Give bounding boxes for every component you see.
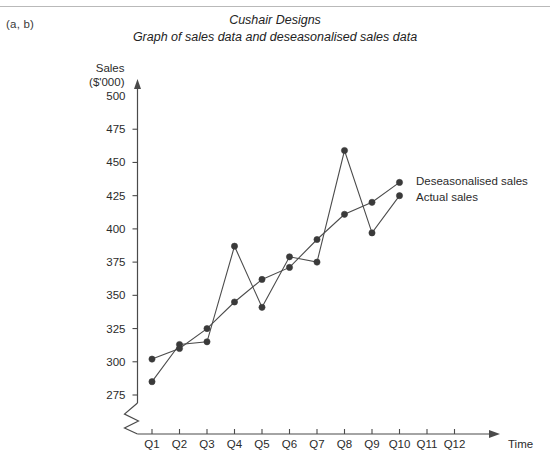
x-tick-label: Q11 [417, 438, 438, 450]
data-point [204, 339, 210, 345]
sales-line-chart: 275300325350375400425450475500 Q1Q2Q3Q4Q… [0, 0, 550, 463]
legend-label: Deseasonalised sales [416, 175, 528, 187]
x-axis: Q1Q2Q3Q4Q5Q6Q7Q8Q9Q10Q11Q12 [138, 429, 501, 450]
x-tick-label: Q1 [144, 438, 159, 450]
data-point [149, 379, 155, 385]
legend-label: Actual sales [416, 191, 478, 203]
data-point [204, 326, 210, 332]
x-axis-arrow [489, 430, 500, 438]
y-tick-label: 500 [106, 90, 125, 102]
data-point [314, 236, 320, 242]
chart-page: (a, b) Cushair Designs Graph of sales da… [0, 0, 550, 463]
chart-legend: Deseasonalised salesActual sales [416, 175, 528, 203]
data-point [231, 299, 237, 305]
data-point [396, 193, 402, 199]
x-tick-label: Q10 [389, 438, 411, 450]
y-tick-label: 300 [106, 356, 125, 368]
axis-labels: Sales($'000)Time [89, 62, 533, 450]
y-axis-title-line1: Sales [96, 62, 125, 74]
x-tick-label: Q12 [444, 438, 466, 450]
data-point [369, 199, 375, 205]
chart-series [149, 147, 403, 384]
data-point [369, 230, 375, 236]
x-tick-label: Q8 [337, 438, 352, 450]
y-tick-label: 450 [106, 156, 125, 168]
x-tick-label: Q4 [227, 438, 243, 450]
series-line-actual-sales [152, 151, 400, 382]
series-line-deseasonalised-sales [152, 182, 400, 359]
y-tick-label: 475 [106, 123, 125, 135]
data-point [231, 243, 237, 249]
axis-break-zigzag [125, 403, 139, 434]
y-tick-label: 325 [106, 323, 125, 335]
x-tick-label: Q9 [364, 438, 379, 450]
y-tick-label: 425 [106, 190, 125, 202]
data-point [314, 259, 320, 265]
y-tick-label: 275 [106, 389, 125, 401]
data-point [176, 345, 182, 351]
x-tick-label: Q2 [172, 438, 187, 450]
x-tick-label: Q6 [282, 438, 297, 450]
data-point [259, 276, 265, 282]
y-axis-title-line2: ($'000) [89, 76, 125, 88]
x-tick-label: Q5 [254, 438, 269, 450]
data-point [396, 179, 402, 185]
y-tick-label: 400 [106, 223, 125, 235]
x-tick-label: Q3 [199, 438, 214, 450]
data-point [149, 356, 155, 362]
x-axis-title: Time [508, 438, 533, 450]
y-axis-arrow [134, 79, 141, 89]
data-point [341, 211, 347, 217]
y-axis: 275300325350375400425450475500 [106, 79, 141, 434]
data-point [286, 264, 292, 270]
x-tick-label: Q7 [309, 438, 324, 450]
data-point [341, 147, 347, 153]
data-point [286, 254, 292, 260]
data-point [259, 304, 265, 310]
y-tick-label: 350 [106, 289, 125, 301]
y-tick-label: 375 [106, 256, 125, 268]
